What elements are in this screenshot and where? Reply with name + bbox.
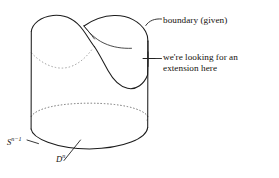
annotation-boundary: boundary (given) [163,15,227,26]
label-sphere-exponent: n−1 [11,136,21,142]
bottom-rim-front-arc [31,128,148,149]
top-rim-saddle-descent [95,47,148,89]
sphere-label-leader-line [27,140,39,144]
extension-cross-marker [143,52,155,67]
label-disk-dn: Dn [56,154,65,164]
disk-label-leader-line [64,140,81,161]
top-rim-left-lobe [31,15,94,47]
fold-crossing-tick [84,26,95,39]
annotation-extension: we're looking for an extension here [163,52,275,75]
label-sphere-sn-1: Sn−1 [7,137,22,147]
annotation-extension-line2: extension here [163,63,275,74]
boundary-leader-line [146,19,162,26]
annotation-extension-line1: we're looking for an [163,52,238,62]
label-disk-exponent: n [62,153,65,159]
bottom-rim-hidden-back-edge [31,103,148,116]
figure-canvas: boundary (given) we're looking for an ex… [0,0,279,178]
interior-fold-curve [84,26,132,48]
cylinder-extension-diagram [0,0,279,178]
top-rim-hidden-back-edge [32,48,94,68]
